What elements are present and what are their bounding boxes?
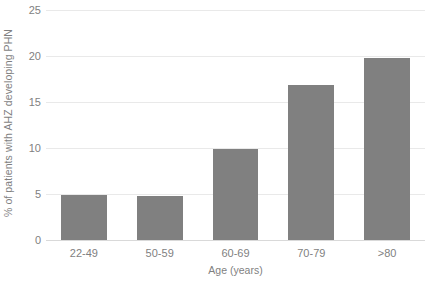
y-tick-label: 15 — [29, 96, 41, 108]
y-tick-label: 10 — [29, 142, 41, 154]
x-tick-label: 60-69 — [221, 247, 249, 259]
y-axis-title-text: % of patients with AHZ developing PHN — [3, 29, 15, 217]
y-tick-label: 0 — [35, 234, 41, 246]
y-tick-label: 5 — [35, 188, 41, 200]
x-tick-label: >80 — [378, 247, 397, 259]
x-axis-title: Age (years) — [46, 264, 425, 276]
bar — [137, 196, 183, 240]
y-tick-label: 20 — [29, 50, 41, 62]
x-tick-label: 22-49 — [70, 247, 98, 259]
x-tick-label: 50-59 — [146, 247, 174, 259]
bar — [61, 195, 107, 240]
bar — [364, 58, 410, 240]
gridline-0 — [46, 240, 425, 241]
y-axis-tick-labels: 0510152025 — [17, 0, 45, 246]
y-tick-label: 25 — [29, 4, 41, 16]
y-axis-title: % of patients with AHZ developing PHN — [0, 0, 17, 246]
x-tick-label: 70-79 — [297, 247, 325, 259]
bar-chart: % of patients with AHZ developing PHN 05… — [0, 0, 442, 287]
bars — [46, 10, 425, 240]
bar — [213, 149, 259, 240]
x-axis-tick-labels: 22-4950-5960-6970-79>80 — [46, 244, 425, 266]
plot-area — [46, 10, 425, 240]
bar — [288, 85, 334, 240]
